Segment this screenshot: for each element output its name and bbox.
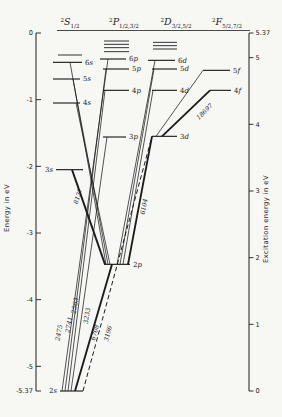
left-axis-tick-label--3: -3 (26, 229, 33, 237)
level-label-4f: 4f (234, 87, 242, 95)
level-label-4s: 4s (83, 99, 91, 107)
level-label-6p: 6p (129, 55, 138, 63)
left-axis-tick-label--5: -5 (26, 363, 33, 371)
level-label-5p: 5p (132, 65, 141, 73)
level-label-letter: s (87, 99, 91, 107)
term-header-P: 2P1/2,3/2 (109, 16, 139, 29)
right-axis-title: Excitation energy in eV (262, 175, 270, 263)
left-axis-tick-label-0: 0 (29, 29, 33, 37)
wavelength-label-2741: 2741 (64, 316, 74, 334)
level-label-letter: f (236, 67, 241, 75)
level-label-letter: p (133, 55, 138, 63)
right-axis-tick-label-0: 0 (256, 387, 260, 395)
wavelength-label-2475: 2475 (54, 324, 64, 342)
level-label-2s: 2s (49, 387, 57, 395)
wavelength-label-3233: 3233 (82, 307, 91, 324)
right-axis-tick-label-5.37: 5.37 (256, 29, 271, 37)
term-header-sub: 1/2,3/2 (119, 23, 139, 29)
transition-2s-4p-2741 (68, 90, 105, 391)
term-header-S: 2S1/2 (60, 16, 80, 29)
level-label-2p: 2p (133, 261, 142, 269)
right-axis-tick-label-3: 3 (256, 187, 260, 195)
level-label-5f: 5f (233, 67, 241, 75)
left-axis-tick-label--1: -1 (26, 96, 33, 104)
level-label-letter: s (87, 75, 91, 83)
transition-5d-2p (120, 69, 154, 264)
term-header-D: 2D3/2,5/2 (161, 16, 192, 29)
level-label-letter: d (184, 65, 189, 73)
level-label-3s: 3s (45, 166, 53, 174)
transition-4d-2p (123, 90, 153, 264)
diagram-canvas: 0-1-2-3-4-5-5.375.375432102S1/22s3s4s5s6… (0, 0, 282, 417)
right-axis-tick-label-2: 2 (256, 254, 260, 262)
level-label-letter: f (237, 87, 242, 95)
level-label-6s: 6s (85, 59, 93, 67)
left-axis-tick-label--5.37: -5.37 (16, 387, 33, 395)
level-label-letter: p (136, 65, 141, 73)
level-label-letter: p (136, 87, 141, 95)
transition-2s-3p-3233 (71, 137, 107, 391)
term-header-sub: 1/2 (71, 23, 80, 29)
level-label-3p: 3p (129, 133, 138, 141)
level-label-letter: s (89, 59, 93, 67)
level-label-letter: p (137, 261, 142, 269)
wavelength-label-18697: 18697 (195, 102, 214, 121)
level-label-letter: d (182, 57, 187, 65)
right-axis-tick-label-4: 4 (256, 121, 260, 129)
wavelength-label-3196: 3196 (102, 325, 113, 342)
level-label-letter: s (49, 166, 53, 174)
term-header-F: 2F5/2,7/2 (212, 16, 242, 29)
grotrian-energy-level-diagram: 0-1-2-3-4-5-5.375.375432102S1/22s3s4s5s6… (0, 0, 282, 417)
transition-3d-2p-6104 (128, 136, 152, 264)
left-axis-title: Energy in eV (3, 184, 11, 232)
level-label-3d: 3d (180, 133, 189, 141)
left-axis-tick-label--4: -4 (26, 296, 33, 304)
level-label-letter: s (53, 387, 57, 395)
right-axis-tick-label-1: 1 (256, 321, 260, 329)
left-axis-tick-label--2: -2 (26, 163, 33, 171)
level-label-5s: 5s (83, 75, 91, 83)
level-label-letter: p (133, 133, 138, 141)
level-label-6d: 6d (178, 57, 187, 65)
level-label-4p: 4p (132, 87, 141, 95)
term-header-sub: 3/2,5/2 (172, 23, 192, 29)
level-label-letter: d (184, 133, 189, 141)
level-label-5d: 5d (180, 65, 189, 73)
transition-4s-2p (76, 103, 110, 264)
term-header-sub: 5/2,7/2 (222, 23, 242, 29)
right-axis-tick-label-5: 5 (256, 54, 260, 62)
